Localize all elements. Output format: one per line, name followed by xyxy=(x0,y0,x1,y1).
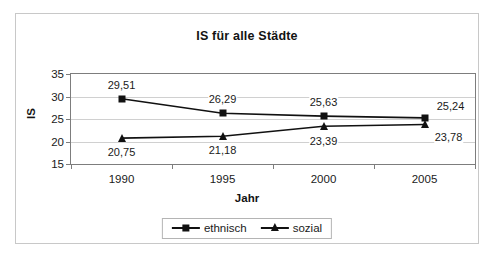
data-point-sozial-2005 xyxy=(421,120,429,128)
y-axis-title: IS xyxy=(25,108,37,119)
legend-marker-square-icon xyxy=(172,223,200,234)
data-point-ethnisch-2000 xyxy=(320,113,327,120)
plot-area: 1520253035 1990199520002005 29,5126,2925… xyxy=(70,73,476,165)
y-tick-label: 20 xyxy=(51,136,64,148)
data-label-sozial-2005: 23,78 xyxy=(434,131,464,143)
legend-label: sozial xyxy=(293,222,322,234)
data-point-ethnisch-1990 xyxy=(118,95,125,102)
chart-title: IS für alle Städte xyxy=(16,29,478,43)
legend-item-sozial[interactable]: sozial xyxy=(261,222,322,234)
data-point-sozial-1990 xyxy=(118,134,126,142)
x-tick-mark xyxy=(475,164,476,169)
legend-marker-triangle-icon xyxy=(261,223,289,234)
series-line-ethnisch xyxy=(122,99,425,118)
data-label-ethnisch-2000: 25,63 xyxy=(309,96,339,108)
series-line-sozial xyxy=(122,124,425,138)
y-tick-label: 30 xyxy=(51,91,64,103)
data-label-sozial-1990: 20,75 xyxy=(107,146,137,158)
x-tick-label: 1995 xyxy=(210,173,236,185)
legend-label: ethnisch xyxy=(204,222,247,234)
x-tick-label: 1990 xyxy=(109,173,135,185)
data-label-sozial-2000: 23,39 xyxy=(309,135,339,147)
data-label-ethnisch-1995: 26,29 xyxy=(208,93,238,105)
x-tick-mark xyxy=(273,164,274,169)
data-point-ethnisch-1995 xyxy=(219,110,226,117)
x-tick-label: 2005 xyxy=(412,173,438,185)
x-tick-mark xyxy=(374,164,375,169)
data-label-ethnisch-2005: 25,24 xyxy=(436,100,466,112)
x-tick-label: 2000 xyxy=(311,173,337,185)
data-point-sozial-1995 xyxy=(219,132,227,140)
chart-legend: ethnischsozial xyxy=(162,218,332,239)
data-label-sozial-1995: 21,18 xyxy=(208,144,238,156)
y-tick-label: 25 xyxy=(51,113,64,125)
x-tick-mark xyxy=(71,164,72,169)
chart-frame: IS für alle Städte IS 1520253035 1990199… xyxy=(15,13,479,244)
legend-item-ethnisch[interactable]: ethnisch xyxy=(172,222,247,234)
y-tick-label: 15 xyxy=(51,158,64,170)
y-tick-label: 35 xyxy=(51,68,64,80)
data-label-ethnisch-1990: 29,51 xyxy=(107,79,137,91)
x-tick-mark xyxy=(172,164,173,169)
x-axis-title: Jahr xyxy=(16,192,478,204)
data-point-sozial-2000 xyxy=(320,122,328,130)
